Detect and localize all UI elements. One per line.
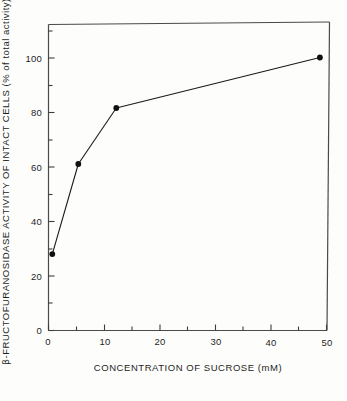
figure-container: 0 20 40 60 80 100 0 10 20 30 40 50 CONCE… <box>0 0 347 401</box>
data-point-marker <box>317 55 323 61</box>
x-tick-label-30: 30 <box>211 336 222 347</box>
plot-frame <box>49 22 330 331</box>
x-axis-ticks <box>49 325 327 331</box>
y-axis-title-text: -FRUCTOFURANOSIDASE ACTIVITY OF INTACT C… <box>0 0 11 358</box>
data-series-line <box>52 58 320 255</box>
x-tick-label-0: 0 <box>45 336 50 347</box>
x-tick-label-10: 10 <box>100 336 111 347</box>
data-point-markers <box>49 55 322 257</box>
y-tick-label-20: 20 <box>16 271 42 282</box>
y-tick-label-40: 40 <box>16 216 42 227</box>
x-tick-label-20: 20 <box>155 336 166 347</box>
x-tick-label-40: 40 <box>266 337 277 348</box>
x-tick-label-50: 50 <box>322 337 333 348</box>
frame-top-border <box>49 22 330 25</box>
y-tick-label-0: 0 <box>16 325 42 336</box>
frame-right-border <box>327 22 330 331</box>
y-tick-label-80: 80 <box>16 107 42 118</box>
data-point-marker <box>75 161 81 167</box>
x-axis-title: CONCENTRATION OF SUCROSE (mM) <box>94 362 282 373</box>
data-point-marker <box>113 105 119 111</box>
y-axis-title: β-FRUCTOFURANOSIDASE ACTIVITY OF INTACT … <box>0 35 11 365</box>
chart-plot-area <box>0 0 347 401</box>
y-axis-title-beta: β <box>0 358 11 365</box>
y-tick-label-60: 60 <box>16 162 42 173</box>
y-tick-label-100: 100 <box>14 53 42 64</box>
data-point-marker <box>49 251 55 257</box>
y-axis-ticks <box>49 31 55 331</box>
